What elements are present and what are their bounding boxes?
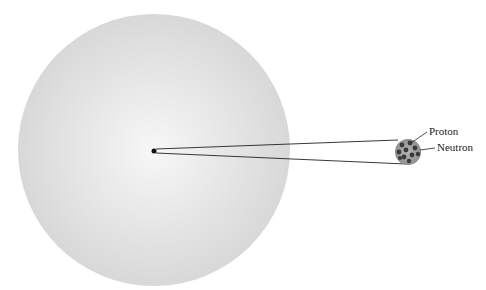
neutron-label: Neutron	[437, 141, 474, 153]
magnified-nucleus	[395, 139, 421, 165]
neutron-leader	[420, 148, 435, 150]
atom-diagram: Proton Neutron	[0, 0, 486, 290]
proton-leader	[411, 132, 427, 143]
nucleus-dot	[152, 149, 157, 154]
proton-label: Proton	[429, 125, 459, 137]
